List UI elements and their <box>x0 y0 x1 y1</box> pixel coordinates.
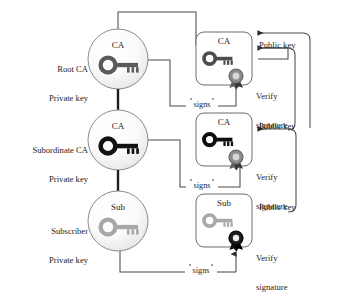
verify-label-root: Verify signature <box>256 73 288 150</box>
signs-label-root: signs <box>186 100 218 109</box>
entity-key-type: Private key <box>2 175 88 185</box>
entity-name: Root CA <box>10 65 88 75</box>
signs-label-subscriber: signs <box>185 266 217 275</box>
seal-icon <box>228 149 243 170</box>
node-label-subscriber: Sub <box>98 202 138 212</box>
verify-label-subscriber: Verify signature <box>256 235 288 296</box>
entity-name: Subordinate CA <box>2 146 88 156</box>
node-label-subordinate-ca: CA <box>98 121 138 131</box>
node-label-root-ca: CA <box>98 40 138 50</box>
verify-label-subordinate: Verify signature <box>256 154 288 231</box>
verify-line-1: Verify <box>256 92 288 102</box>
verify-line-1: Verify <box>256 254 288 264</box>
verify-line-2: signature <box>256 121 288 131</box>
entity-name: Subscriber <box>10 227 88 237</box>
entity-label-subordinate-ca: Subordinate CA Private key <box>2 127 88 204</box>
node-root-ca[interactable] <box>88 29 148 89</box>
seal-icon <box>228 230 243 251</box>
verify-line-1: Verify <box>256 173 288 183</box>
verify-line-2: signature <box>256 283 288 293</box>
entity-label-root-ca: Root CA Private key <box>10 46 88 123</box>
entity-key-type: Private key <box>10 256 88 266</box>
signs-label-subordinate: signs <box>186 181 218 190</box>
connector-subscriber-signs <box>120 250 236 272</box>
node-subordinate-ca[interactable] <box>88 110 148 170</box>
verify-line-2: signature <box>256 202 288 212</box>
cert-label-subscriber: Sub <box>204 198 244 208</box>
node-subscriber[interactable] <box>88 191 148 251</box>
cert-label-subordinate: CA <box>204 117 244 127</box>
cert-label-root: CA <box>204 36 244 46</box>
seal-icon <box>228 68 243 89</box>
public-key-label-root: Public key <box>259 41 296 51</box>
entity-key-type: Private key <box>10 94 88 104</box>
entity-label-subscriber: Subscriber Private key <box>10 208 88 285</box>
